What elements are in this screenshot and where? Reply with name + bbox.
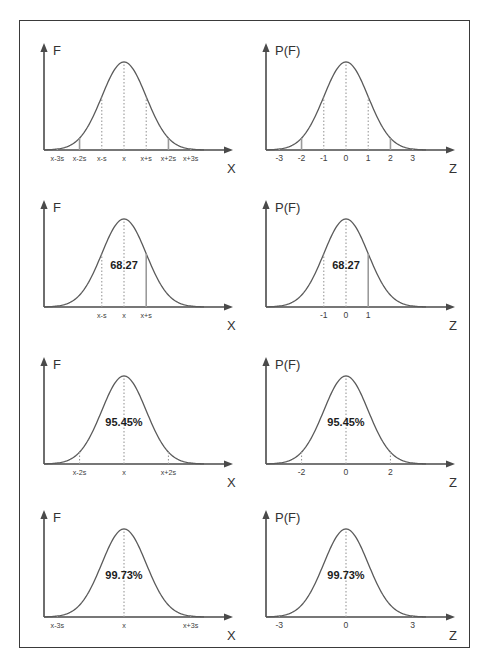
x-axis-label: X <box>227 628 236 643</box>
x-tick-label: -3 <box>276 153 284 163</box>
chart-canvas: x-3sx-2sx-sxx+sx+2sx+3sFX <box>22 24 244 181</box>
x-tick-label: x+2s <box>161 468 177 477</box>
x-tick-label: 0 <box>344 310 349 320</box>
x-tick-label: x <box>122 621 126 630</box>
area-percentage-label: 99.73% <box>105 569 143 581</box>
x-tick-label: 2 <box>388 153 393 163</box>
y-axis-arrow-icon <box>262 200 269 209</box>
x-axis-arrow-icon <box>224 613 233 620</box>
y-axis-label: P(F) <box>275 510 300 525</box>
x-axis-label: Z <box>449 161 457 176</box>
chart-panel-row2-left: x-sxx+sFX68.27 <box>22 181 244 338</box>
x-tick-label: -2 <box>298 467 306 477</box>
chart-canvas: -3-2-10123P(F)Z <box>244 24 466 181</box>
chart-panel-row4-left: x-3sxx+3sFX99.73% <box>22 491 244 648</box>
y-axis-label: P(F) <box>275 200 300 215</box>
area-percentage-label: 68.27 <box>110 259 138 271</box>
area-percentage-label: 95.45% <box>327 416 365 428</box>
x-tick-label: 0 <box>344 153 349 163</box>
x-tick-label: x <box>122 468 126 477</box>
x-tick-label: -1 <box>320 310 328 320</box>
chart-panel-row1-left: x-3sx-2sx-sxx+sx+2sx+3sFX <box>22 24 244 181</box>
x-axis-arrow-icon <box>224 460 233 467</box>
area-percentage-label: 95.45% <box>105 416 143 428</box>
y-axis-arrow-icon <box>40 200 47 209</box>
y-axis-arrow-icon <box>262 357 269 366</box>
x-axis-label: Z <box>449 475 457 490</box>
x-axis-arrow-icon <box>446 613 455 620</box>
x-tick-label: 1 <box>366 153 371 163</box>
y-axis-arrow-icon <box>40 357 47 366</box>
y-axis-label: F <box>53 43 61 58</box>
chart-canvas: -202P(F)Z95.45% <box>244 338 466 495</box>
x-axis-label: Z <box>449 628 457 643</box>
x-tick-label: x-s <box>97 311 107 320</box>
x-axis-label: X <box>227 161 236 176</box>
y-axis-label: F <box>53 510 61 525</box>
y-axis-arrow-icon <box>40 510 47 519</box>
chart-grid: x-3sx-2sx-sxx+sx+2sx+3sFX-3-2-10123P(F)Z… <box>20 21 469 647</box>
y-axis-label: P(F) <box>275 43 300 58</box>
x-axis-arrow-icon <box>446 146 455 153</box>
chart-canvas: x-3sxx+3sFX99.73% <box>22 491 244 648</box>
x-tick-label: 2 <box>388 467 393 477</box>
x-axis-arrow-icon <box>224 303 233 310</box>
x-tick-label: x-3s <box>51 154 65 163</box>
chart-panel-row3-right: -202P(F)Z95.45% <box>244 338 466 495</box>
chart-canvas: x-2sxx+2sFX95.45% <box>22 338 244 495</box>
y-axis-arrow-icon <box>262 510 269 519</box>
chart-panel-row2-right: -101P(F)Z68.27 <box>244 181 466 338</box>
x-tick-label: x <box>122 311 126 320</box>
x-tick-label: x+3s <box>183 154 199 163</box>
y-axis-arrow-icon <box>262 43 269 52</box>
chart-canvas: x-sxx+sFX68.27 <box>22 181 244 338</box>
x-axis-arrow-icon <box>446 303 455 310</box>
y-axis-label: F <box>53 357 61 372</box>
chart-panel-row3-left: x-2sxx+2sFX95.45% <box>22 338 244 495</box>
x-axis-arrow-icon <box>446 460 455 467</box>
x-tick-label: x-s <box>97 154 107 163</box>
chart-canvas: -101P(F)Z68.27 <box>244 181 466 338</box>
x-tick-label: 3 <box>410 153 415 163</box>
x-axis-label: X <box>227 318 236 333</box>
chart-canvas: -303P(F)Z99.73% <box>244 491 466 648</box>
x-tick-label: x <box>122 154 126 163</box>
x-tick-label: x-2s <box>73 468 87 477</box>
area-percentage-label: 68.27 <box>332 259 360 271</box>
x-tick-label: x+2s <box>161 154 177 163</box>
figure-frame: x-3sx-2sx-sxx+sx+2sx+3sFX-3-2-10123P(F)Z… <box>19 20 470 648</box>
x-tick-label: x+3s <box>183 621 199 630</box>
x-tick-label: -3 <box>276 620 284 630</box>
chart-panel-row4-right: -303P(F)Z99.73% <box>244 491 466 648</box>
x-tick-label: 3 <box>410 620 415 630</box>
x-tick-label: x-3s <box>51 621 65 630</box>
y-axis-label: P(F) <box>275 357 300 372</box>
x-axis-arrow-icon <box>224 146 233 153</box>
area-percentage-label: 99.73% <box>327 569 365 581</box>
y-axis-label: F <box>53 200 61 215</box>
x-tick-label: 0 <box>344 467 349 477</box>
x-tick-label: x-2s <box>73 154 87 163</box>
x-tick-label: x+s <box>141 311 153 320</box>
x-tick-label: -1 <box>320 153 328 163</box>
x-axis-label: Z <box>449 318 457 333</box>
x-tick-label: -2 <box>298 153 306 163</box>
x-tick-label: 0 <box>344 620 349 630</box>
x-tick-label: x+s <box>141 154 153 163</box>
chart-panel-row1-right: -3-2-10123P(F)Z <box>244 24 466 181</box>
y-axis-arrow-icon <box>40 43 47 52</box>
x-tick-label: 1 <box>366 310 371 320</box>
x-axis-label: X <box>227 475 236 490</box>
